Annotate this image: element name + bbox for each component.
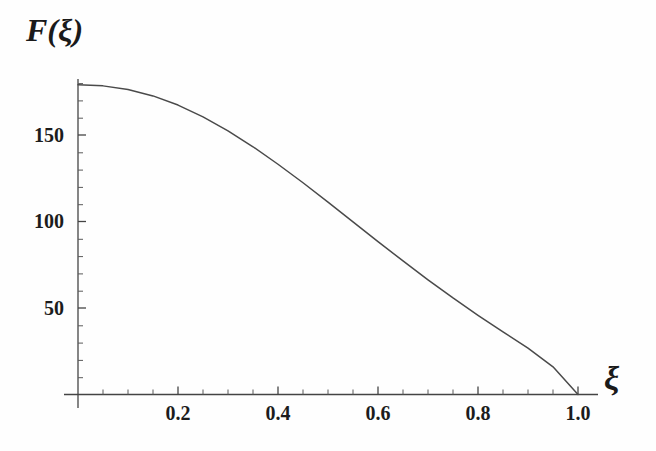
x-tick-label-0-2: 0.2 xyxy=(148,403,208,423)
x-axis-label: ξ xyxy=(604,362,619,396)
y-tick-label-50: 50 xyxy=(8,298,64,318)
plot-svg xyxy=(0,0,656,451)
y-tick-label-100: 100 xyxy=(8,211,64,231)
y-tick-label-150: 150 xyxy=(8,125,64,145)
x-tick-label-1-0: 1.0 xyxy=(548,403,608,423)
plot-background xyxy=(0,0,656,451)
x-tick-label-0-8: 0.8 xyxy=(448,403,508,423)
x-tick-label-0-6: 0.6 xyxy=(348,403,408,423)
x-tick-label-0-4: 0.4 xyxy=(248,403,308,423)
y-axis-label: F(ξ) xyxy=(26,14,83,46)
figure-container: F(ξ) ξ 50 100 150 0.2 0.4 0.6 0.8 1.0 xyxy=(0,0,656,451)
